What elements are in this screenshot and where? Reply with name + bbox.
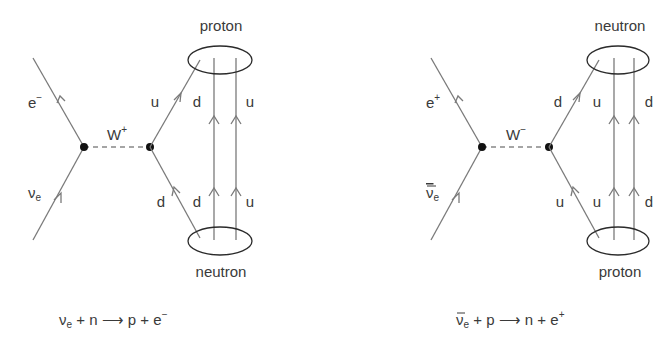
reaction-equation: νe + n ⟶ p + e− bbox=[59, 309, 168, 330]
quark-out-arrow-icon bbox=[174, 93, 181, 102]
hadron-bottom-ellipse bbox=[188, 227, 252, 255]
boson-label: W+ bbox=[107, 124, 127, 143]
spectator-top-label-1: d bbox=[193, 93, 201, 110]
quark-in-label: d bbox=[157, 193, 165, 210]
hadron-bottom-ellipse bbox=[587, 227, 649, 255]
hadron-bottom-label: proton bbox=[599, 263, 642, 280]
hadron-top-label: neutron bbox=[595, 17, 646, 34]
hadron-top-label: proton bbox=[200, 17, 243, 34]
quark-out-label: u bbox=[151, 93, 159, 110]
spectator-top-label-2: d bbox=[645, 93, 653, 110]
outgoing-lepton-label: e− bbox=[28, 92, 42, 111]
spectator-bottom-label-2: u bbox=[246, 193, 254, 210]
quark-out-label: d bbox=[554, 93, 562, 110]
boson-label: W− bbox=[506, 124, 526, 143]
outgoing-lepton-label: e+ bbox=[426, 92, 440, 111]
spectator-top-label-1: u bbox=[593, 93, 601, 110]
spectator-top-label-2: u bbox=[246, 93, 254, 110]
spectator-bottom-label-2: d bbox=[645, 193, 653, 210]
hadron-bottom-label: neutron bbox=[196, 263, 247, 280]
quark-in-label: u bbox=[556, 193, 564, 210]
vertex-lepton bbox=[80, 143, 88, 151]
reaction-equation: νe + p ⟶ n + e+ bbox=[456, 309, 565, 330]
hadron-top-ellipse bbox=[587, 46, 649, 74]
quark-out-arrow-icon bbox=[573, 93, 580, 102]
feynman-diagrams: proton neutron e− νe W+ u d d u d u νe +… bbox=[0, 0, 671, 354]
diagram-left: proton neutron e− νe W+ u d d u d u νe +… bbox=[28, 17, 254, 330]
spectator-bottom-label-1: d bbox=[193, 193, 201, 210]
incoming-lepton-label: νe bbox=[426, 184, 440, 203]
incoming-lepton-label: νe bbox=[28, 184, 42, 203]
spectator-bottom-label-1: u bbox=[593, 193, 601, 210]
hadron-top-ellipse bbox=[188, 46, 252, 74]
diagram-right: neutron proton e+ νe W− d u u d u d νe +… bbox=[426, 17, 653, 330]
vertex-lepton bbox=[478, 143, 486, 151]
